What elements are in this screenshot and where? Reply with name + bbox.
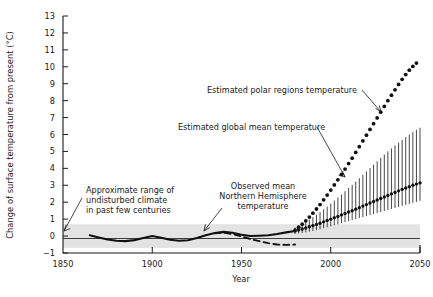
polar-point (325, 193, 329, 197)
polar-point (343, 167, 347, 171)
annotation-polar: Estimated polar regions temperature (207, 85, 381, 112)
annotation-range-line2: undisturbed climate (86, 195, 167, 205)
global-mean-point (372, 200, 375, 203)
annotation-observed-line1: Observed mean (231, 181, 295, 191)
annotation-global-label: Estimated global mean temperature (178, 122, 325, 132)
y-tick-label: 7 (50, 113, 55, 123)
polar-point (382, 104, 386, 108)
global-mean-point (343, 212, 346, 215)
polar-point (304, 219, 308, 223)
polar-point (357, 145, 361, 149)
polar-point (400, 77, 404, 81)
x-tick-label: 1950 (231, 259, 252, 269)
polar-point (329, 188, 333, 192)
polar-point (372, 122, 376, 126)
global-mean-point (400, 188, 403, 191)
annotation-observed-line3: temperature (238, 201, 289, 211)
global-mean-point (383, 195, 386, 198)
y-tick-label: 6 (50, 130, 55, 140)
climate-projection-chart: −1012345678910111213 1850190019502000205… (0, 0, 433, 297)
global-mean-point (358, 206, 361, 209)
annotation-observed: Observed mean Northern Hemisphere temper… (204, 181, 307, 231)
global-mean-point (340, 213, 343, 216)
y-tick-label: 3 (50, 180, 55, 190)
polar-point (311, 211, 315, 215)
polar-point (350, 156, 354, 160)
global-mean-point (336, 215, 339, 218)
global-mean-point (325, 219, 328, 222)
global-mean-point (318, 222, 321, 225)
global-mean-point (361, 204, 364, 207)
global-mean-point (322, 220, 325, 223)
annotation-polar-leader (362, 90, 381, 112)
polar-point (415, 61, 419, 65)
global-mean-point (308, 225, 311, 228)
global-mean-point (347, 210, 350, 213)
global-mean-point (300, 227, 303, 230)
polar-point (393, 88, 397, 92)
global-mean-point (379, 197, 382, 200)
x-tick-label: 1850 (53, 259, 74, 269)
polar-point (390, 93, 394, 97)
global-mean-point (404, 186, 407, 189)
series-dotted-with-error-bars (293, 128, 421, 234)
polar-point (407, 68, 411, 72)
y-tick-label: 12 (45, 28, 55, 38)
annotation-observed-line2: Northern Hemisphere (219, 191, 306, 201)
x-tick-label: 2050 (410, 259, 431, 269)
global-mean-point (415, 182, 418, 185)
annotation-range-line1: Approximate range of (86, 185, 174, 195)
y-tick-label: 0 (50, 231, 55, 241)
y-tick-label: 13 (45, 11, 55, 21)
polar-point (322, 198, 326, 202)
polar-point (404, 73, 408, 77)
y-tick-label: −1 (43, 248, 55, 258)
x-tick-label: 2000 (320, 259, 341, 269)
global-mean-point (354, 207, 357, 210)
x-axis-tick-labels: 18501900195020002050 (53, 259, 431, 269)
polar-point (375, 116, 379, 120)
polar-point (318, 203, 322, 207)
global-mean-point (375, 198, 378, 201)
polar-point (307, 215, 311, 219)
global-mean-point (329, 217, 332, 220)
polar-point (293, 228, 297, 232)
y-tick-label: 5 (50, 146, 55, 156)
annotation-range: Approximate range of undisturbed climate… (64, 185, 174, 231)
polar-point (347, 162, 351, 166)
global-mean-point (350, 209, 353, 212)
global-mean-point (386, 194, 389, 197)
undisturbed-climate-band (63, 224, 420, 248)
global-mean-point (408, 185, 411, 188)
y-tick-label: 11 (45, 45, 55, 55)
global-mean-point (393, 191, 396, 194)
global-mean-point (333, 216, 336, 219)
polar-point (386, 99, 390, 103)
polar-point (361, 139, 365, 143)
annotation-range-line3: in past few centuries (86, 205, 171, 215)
polar-point (336, 178, 340, 182)
annotation-global-leader (317, 127, 345, 177)
polar-point (368, 128, 372, 132)
y-tick-label: 8 (50, 96, 55, 106)
polar-point (365, 133, 369, 137)
polar-point (297, 225, 301, 229)
y-axis-tick-labels: −1012345678910111213 (43, 11, 55, 258)
y-tick-label: 4 (50, 163, 55, 173)
global-mean-point (311, 224, 314, 227)
global-mean-point (315, 223, 318, 226)
polar-point (315, 207, 319, 211)
plot-band-group (63, 224, 420, 248)
global-mean-point (397, 189, 400, 192)
global-mean-point (304, 226, 307, 229)
polar-point (300, 222, 304, 226)
y-axis-title: Change of surface temperature from prese… (5, 31, 15, 239)
polar-point (354, 151, 358, 155)
global-mean-point (390, 192, 393, 195)
x-axis-title: Year (231, 274, 250, 284)
y-tick-label: 9 (50, 79, 55, 89)
global-mean-point (411, 184, 414, 187)
global-mean-point (365, 203, 368, 206)
y-tick-label: 10 (45, 62, 55, 72)
global-mean-point (368, 201, 371, 204)
